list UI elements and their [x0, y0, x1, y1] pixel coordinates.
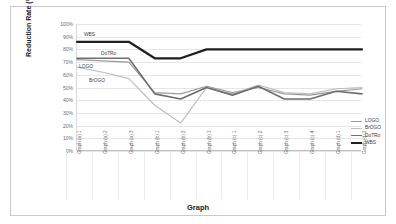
x-separator: [196, 152, 197, 200]
x-separator: [221, 152, 222, 200]
y-tick-label: 10%: [63, 136, 73, 141]
y-tick-label: 30%: [63, 110, 73, 115]
chart-legend: LOGOBrOGODoTRoWBS: [351, 119, 381, 146]
legend-label: WBS: [365, 141, 376, 146]
x-axis-title: Graph: [11, 203, 385, 212]
legend-swatch: [351, 121, 362, 122]
x-separator: [144, 152, 145, 200]
x-tick-label: Graph (c) 4: [311, 131, 316, 154]
legend-swatch: [351, 142, 362, 144]
gridline: [77, 151, 361, 152]
y-tick-label: 100%: [60, 22, 73, 27]
y-tick-label: 50%: [63, 85, 73, 90]
series-line-wbs: [77, 42, 362, 59]
legend-swatch: [351, 128, 362, 129]
x-tick-label: Graph (a) 3: [130, 131, 135, 155]
legend-label: LOGO: [365, 119, 379, 124]
x-tick-label: Graph (c) 2: [259, 131, 264, 154]
series-line-dotro: [77, 58, 362, 99]
x-tick-label: Graph (d) 1: [337, 131, 342, 155]
y-tick-label: 70%: [63, 60, 73, 65]
legend-label: BrOGO: [365, 126, 381, 131]
x-separator: [118, 152, 119, 200]
x-tick-label: Graph (c) 1: [233, 131, 238, 154]
x-separator: [273, 152, 274, 200]
x-separator: [66, 152, 67, 200]
inline-label-brogo: BrOGO: [89, 79, 105, 84]
x-tick-label: Graph (b) 1: [156, 131, 161, 155]
x-tick-label: Graph (c) 3: [285, 131, 290, 154]
legend-item-dotro[interactable]: DoTRo: [351, 134, 381, 139]
series-line-logo: [77, 60, 362, 96]
y-axis-title: Reduction Rate (%): [25, 0, 32, 57]
legend-item-logo[interactable]: LOGO: [351, 119, 381, 124]
x-separator: [170, 152, 171, 200]
series-line-brogo: [77, 67, 362, 123]
legend-item-wbs[interactable]: WBS: [351, 141, 381, 146]
inline-label-logo: LOGO: [79, 65, 93, 70]
legend-swatch: [351, 135, 362, 136]
y-tick-label: 20%: [63, 123, 73, 128]
x-separator: [351, 152, 352, 200]
y-tick-label: 60%: [63, 72, 73, 77]
y-tick-label: 90%: [63, 34, 73, 39]
x-tick-label: Graph (a) 2: [104, 131, 109, 155]
inline-label-wbs: WBS: [84, 33, 95, 38]
x-separator: [247, 152, 248, 200]
legend-item-brogo[interactable]: BrOGO: [351, 126, 381, 131]
x-tick-label: Graph (b) 2: [182, 131, 187, 155]
legend-label: DoTRo: [365, 134, 380, 139]
series-lines: [77, 24, 362, 151]
x-tick-label: Graph (a) 1: [78, 131, 83, 155]
chart-container: Reduction Rate (%) Graph 0%10%20%30%40%5…: [10, 6, 386, 216]
inline-label-dotro: DoTRo: [101, 52, 116, 57]
x-separator: [325, 152, 326, 200]
y-tick-label: 40%: [63, 98, 73, 103]
x-tick-label: Graph (b) 3: [208, 131, 213, 155]
x-separator: [92, 152, 93, 200]
y-tick-label: 80%: [63, 47, 73, 52]
plot-area: 0%10%20%30%40%50%60%70%80%90%100% WBSDoT…: [76, 24, 361, 151]
x-separator: [299, 152, 300, 200]
